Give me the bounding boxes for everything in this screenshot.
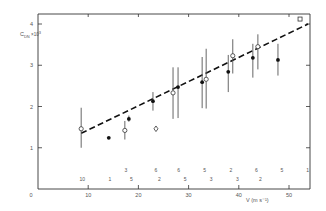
filled-circle-marker	[200, 80, 204, 84]
data-points	[79, 17, 302, 148]
x-tick-label: 0	[29, 192, 32, 198]
y-tick-label: 2	[30, 104, 33, 110]
sample-count-lower: 5	[184, 176, 187, 182]
sample-count-lower: 1	[108, 176, 111, 182]
sample-count-lower: 2	[259, 176, 262, 182]
y-tick-label: 3	[30, 62, 33, 68]
sample-count-lower: 3	[236, 176, 239, 182]
sample-count-upper: 6	[177, 167, 180, 173]
sample-count-upper: 1	[306, 167, 309, 173]
filled-circle-marker	[276, 58, 280, 62]
y-tick-label: 4	[30, 21, 33, 27]
count-annotations: 36652651101525332	[79, 167, 309, 182]
sample-count-lower: 10	[79, 176, 85, 182]
sample-count-upper: 6	[155, 167, 158, 173]
fit-line	[81, 24, 308, 133]
x-tick-label: 30	[186, 192, 192, 198]
open-circle-marker	[171, 91, 175, 95]
filled-circle-marker	[226, 70, 230, 74]
open-square-marker	[298, 17, 302, 21]
filled-circle-marker	[251, 56, 255, 60]
open-diamond-marker	[154, 126, 158, 132]
sample-count-upper: 3	[124, 167, 127, 173]
filled-circle-marker	[151, 99, 155, 103]
x-tick-label: 50	[286, 192, 292, 198]
chart-container: 010203040501234 36652651101525332 CDN ×1…	[0, 0, 326, 211]
open-circle-marker	[123, 128, 127, 132]
open-circle-marker	[79, 127, 83, 131]
filled-circle-marker	[107, 136, 111, 140]
sample-count-lower: 2	[158, 176, 161, 182]
sample-count-lower: 5	[130, 176, 133, 182]
x-tick-label: 40	[236, 192, 242, 198]
open-circle-marker	[256, 45, 260, 49]
x-tick-label: 10	[85, 192, 91, 198]
chart-svg: 010203040501234 36652651101525332 CDN ×1…	[0, 0, 326, 211]
sample-count-upper: 5	[281, 167, 284, 173]
x-tick-label: 20	[135, 192, 141, 198]
filled-circle-marker	[176, 85, 180, 89]
sample-count-lower: 3	[210, 176, 213, 182]
dashed-fit-line	[81, 24, 308, 133]
y-tick-label: 1	[30, 145, 33, 151]
sample-count-upper: 6	[255, 167, 258, 173]
filled-circle-marker	[127, 117, 131, 121]
sample-count-upper: 5	[203, 167, 206, 173]
open-circle-marker	[204, 77, 208, 81]
open-circle-marker	[231, 54, 235, 58]
axes: 010203040501234	[29, 14, 310, 198]
x-axis-label: V (m s⁻¹)	[246, 197, 269, 203]
sample-count-upper: 2	[229, 167, 232, 173]
